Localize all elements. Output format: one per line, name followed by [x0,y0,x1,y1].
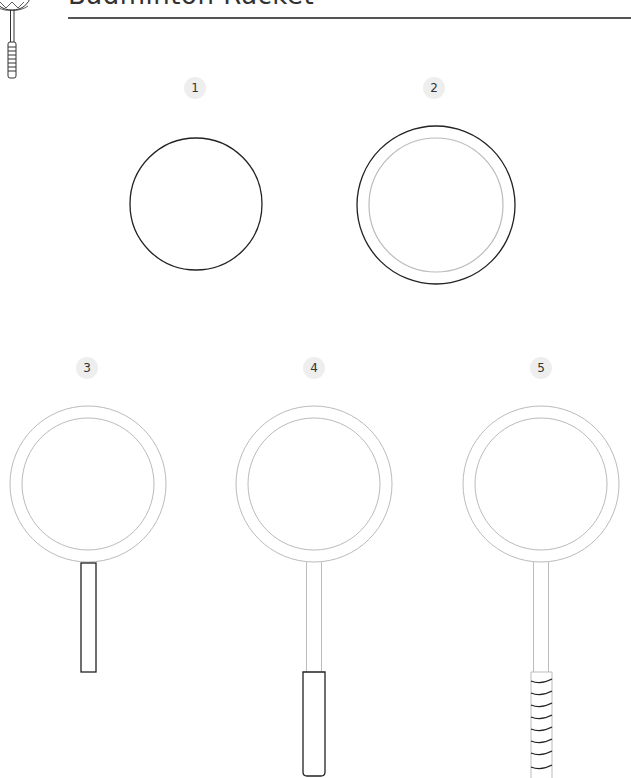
handle [303,672,325,776]
inner-circle [369,138,503,272]
grip-wraps [531,679,552,769]
step-1-drawing [130,138,262,270]
step-4-drawing [236,406,392,776]
drawing-steps [0,0,631,778]
step-5-drawing [463,406,619,778]
step-2-drawing [357,126,515,284]
shaft [81,563,96,672]
frame-circle [357,126,515,284]
head-circle [130,138,262,270]
racket-thumbnail-icon [0,0,30,78]
step-3-drawing [10,406,166,672]
